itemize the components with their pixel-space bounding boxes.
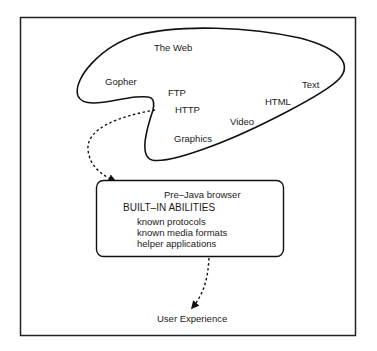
browser-box-heading: BUILT–IN ABILITIES [123,203,215,213]
cloud-item-html: HTML [265,97,291,107]
arrow-browser-to-user [192,258,209,308]
outer-frame [21,18,356,336]
ability-known-protocols: known protocols [137,217,206,227]
cloud-item-ftp: FTP [168,88,186,98]
user-experience-label: User Experience [157,314,227,324]
diagram-canvas: The Web Gopher FTP HTTP Graphics Video H… [0,0,377,351]
cloud-item-graphics: Graphics [174,134,212,144]
ability-known-media-formats: known media formats [137,228,227,238]
browser-box-title: Pre–Java browser [164,190,241,200]
ability-helper-applications: helper applications [137,239,216,249]
cloud-item-video: Video [230,117,254,127]
cloud-label-the-web: The Web [154,43,192,53]
cloud-item-gopher: Gopher [105,77,137,87]
cloud-item-http: HTTP [175,105,200,115]
cloud-item-text: Text [302,80,319,90]
